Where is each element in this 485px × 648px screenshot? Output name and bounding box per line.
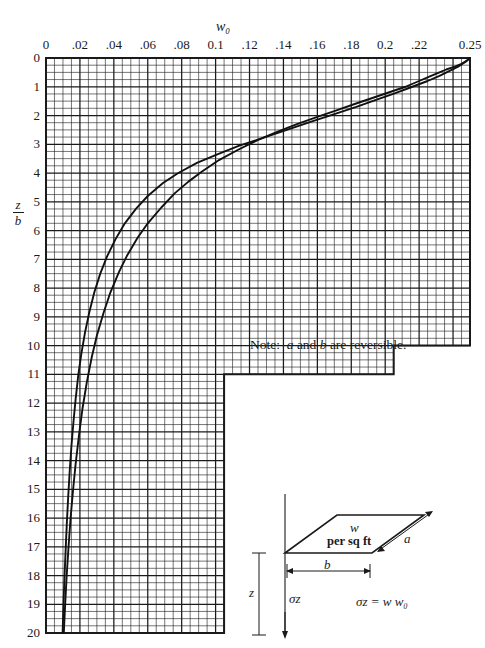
note-suffix: are reversible.	[330, 337, 406, 352]
y-tick-label: 7	[8, 252, 40, 265]
y-tick-label: 20	[8, 626, 40, 639]
figure-root: w₀ 0.02.04.06.080.1.12.14.16.180.2.220.2…	[0, 0, 485, 648]
loaded-area-diagram	[0, 0, 485, 648]
y-tick-label: 18	[8, 569, 40, 582]
diagram-side-a-label: a	[404, 532, 411, 545]
y-tick-label: 10	[8, 339, 40, 352]
diagram-stress-label: σz	[289, 592, 300, 605]
y-tick-label: 9	[8, 310, 40, 323]
x-tick-label: 0.25	[457, 38, 483, 51]
y-tick-label: 0	[8, 51, 40, 64]
x-axis-title: w₀	[216, 20, 230, 34]
y-tick-label: 16	[8, 511, 40, 524]
x-tick-label: .06	[135, 38, 161, 51]
x-tick-label: .22	[406, 38, 432, 51]
y-tick-label: 4	[8, 166, 40, 179]
y-tick-label: 13	[8, 425, 40, 438]
x-tick-label: 0.2	[372, 38, 398, 51]
y-tick-label: 1	[8, 80, 40, 93]
y-tick-label: 17	[8, 540, 40, 553]
y-axis-title-numerator: z	[6, 198, 30, 211]
y-tick-label: 8	[8, 281, 40, 294]
x-tick-label: .12	[237, 38, 263, 51]
diagram-side-b-label: b	[324, 558, 331, 571]
diagram-load-units-label: per sq ft	[327, 535, 371, 548]
note-symbol-b: b	[320, 337, 327, 352]
y-tick-label: 2	[8, 109, 40, 122]
x-tick-label: 0.1	[203, 38, 229, 51]
note-conjunction: and	[297, 337, 317, 352]
note-prefix: Note:	[250, 337, 280, 352]
diagram-load-intensity-label: w	[350, 521, 359, 534]
x-tick-label: .16	[304, 38, 330, 51]
note-symbol-a: a	[287, 337, 294, 352]
x-tick-label: .04	[101, 38, 127, 51]
diagram-depth-label: z	[249, 586, 254, 599]
note-text: Note: a and b are reversible.	[250, 338, 406, 352]
x-tick-label: .02	[67, 38, 93, 51]
diagram-formula: σz = w w₀	[356, 595, 408, 608]
y-tick-label: 11	[8, 367, 40, 380]
y-tick-label: 15	[8, 482, 40, 495]
y-axis-title-denominator: b	[6, 214, 30, 227]
y-axis-title: z b	[6, 198, 30, 228]
y-tick-label: 3	[8, 137, 40, 150]
y-tick-label: 19	[8, 597, 40, 610]
x-tick-label: .18	[338, 38, 364, 51]
y-tick-label: 14	[8, 454, 40, 467]
x-tick-label: .08	[169, 38, 195, 51]
y-tick-label: 12	[8, 396, 40, 409]
x-tick-label: .14	[270, 38, 296, 51]
